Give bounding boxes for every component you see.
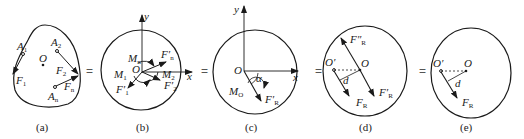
svg-text:F′R: F′R — [378, 86, 393, 100]
svg-text:F′1: F′1 — [115, 83, 129, 97]
svg-text:Fn: Fn — [63, 80, 75, 94]
svg-text:d: d — [455, 77, 461, 89]
svg-text:=: = — [419, 64, 426, 78]
svg-text:MO: MO — [228, 85, 243, 99]
svg-text:x: x — [292, 71, 298, 83]
svg-text:O: O — [39, 52, 47, 64]
svg-text:M1: M1 — [113, 68, 127, 82]
svg-text:F′2: F′2 — [163, 79, 177, 93]
panel-e: O′ O d FR (e) — [431, 28, 511, 134]
svg-text:F′n: F′n — [160, 48, 174, 62]
svg-text:O′: O′ — [433, 57, 444, 69]
svg-text:(c): (c) — [245, 121, 258, 134]
svg-text:F2: F2 — [55, 64, 67, 78]
svg-text:(b): (b) — [136, 121, 149, 134]
svg-text:F″R: F″R — [349, 33, 366, 47]
svg-text:FR: FR — [355, 96, 368, 110]
svg-text:An: An — [47, 90, 59, 104]
panel-a: A1 A2 O F1 F2 Fn An (a) — [13, 25, 80, 134]
svg-text:F′R: F′R — [264, 93, 279, 107]
svg-text:y: y — [233, 3, 239, 15]
svg-text:O: O — [234, 64, 242, 76]
panel-c: y x O α MO F′R (c) — [213, 3, 298, 134]
svg-text:(a): (a) — [36, 121, 49, 134]
panel-b: y x O Mn M1 M2 F′n F′1 F′2 (b) — [101, 10, 192, 134]
svg-text:=: = — [201, 64, 208, 78]
svg-text:O: O — [464, 57, 472, 69]
svg-text:y: y — [143, 10, 149, 22]
svg-text:O: O — [361, 57, 369, 69]
svg-text:Mn: Mn — [127, 52, 141, 66]
svg-text:FR: FR — [461, 96, 474, 110]
svg-text:α: α — [256, 72, 262, 84]
mechanics-diagram: A1 A2 O F1 F2 Fn An (a) = y x O Mn M1 M2… — [0, 0, 524, 139]
svg-text:O′: O′ — [325, 56, 336, 68]
svg-text:A2: A2 — [50, 36, 62, 50]
svg-text:d: d — [343, 74, 349, 86]
svg-text:(e): (e) — [460, 121, 473, 134]
svg-text:x: x — [186, 70, 192, 82]
svg-text:=: = — [315, 64, 322, 78]
svg-text:A1: A1 — [16, 40, 28, 54]
svg-text:(d): (d) — [359, 121, 372, 134]
svg-text:=: = — [86, 64, 93, 78]
panel-d: F″R O′ O d FR F′R (d) — [323, 26, 407, 134]
svg-text:F1: F1 — [15, 74, 27, 88]
